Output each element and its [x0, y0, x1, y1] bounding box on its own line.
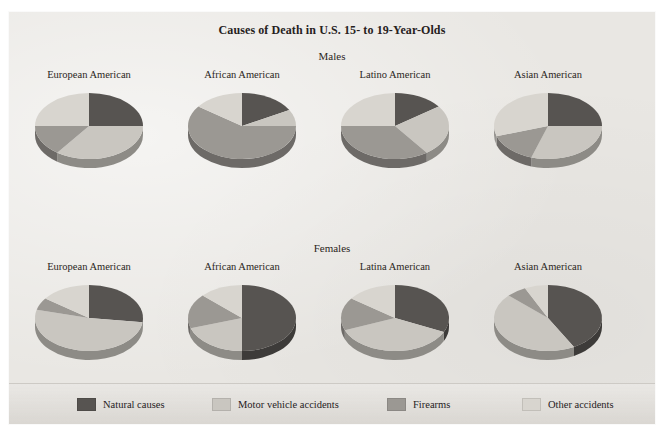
figure-title: Causes of Death in U.S. 15- to 19-Year-O… [9, 23, 655, 38]
pie-label: European American [14, 69, 164, 80]
legend-item-natural-causes: Natural causes [77, 398, 165, 411]
pie-label: Latina American [320, 261, 470, 272]
pie-chart [14, 276, 164, 374]
pie-panel-males-european-american: European American [14, 69, 164, 182]
legend-swatch-firearms [387, 398, 406, 411]
legend: Natural causes Motor vehicle accidents F… [9, 383, 655, 424]
legend-item-other-accidents: Other accidents [522, 398, 614, 411]
pie-chart [14, 84, 164, 182]
legend-label-firearms: Firearms [413, 399, 450, 410]
pie-chart [167, 276, 317, 374]
pie-chart [320, 84, 470, 182]
legend-label-natural-causes: Natural causes [103, 399, 165, 410]
row-label-females: Females [9, 242, 655, 254]
pie-label: African American [167, 261, 317, 272]
pie-chart [167, 84, 317, 182]
pie-label: Asian American [473, 69, 623, 80]
figure-panel: Causes of Death in U.S. 15- to 19-Year-O… [9, 12, 655, 424]
pie-panel-females-african-american: African American [167, 261, 317, 374]
pie-label: Latino American [320, 69, 470, 80]
pie-chart [473, 84, 623, 182]
pie-panel-males-african-american: African American [167, 69, 317, 182]
pie-panel-females-asian-american: Asian American [473, 261, 623, 374]
legend-item-motor-vehicle-accidents: Motor vehicle accidents [212, 398, 339, 411]
pie-chart [320, 276, 470, 374]
legend-label-other-accidents: Other accidents [548, 399, 614, 410]
pie-label: African American [167, 69, 317, 80]
legend-swatch-other-accidents [522, 398, 541, 411]
pie-label: European American [14, 261, 164, 272]
row-label-males: Males [9, 50, 655, 62]
pie-label: Asian American [473, 261, 623, 272]
pie-panel-females-latina-american: Latina American [320, 261, 470, 374]
legend-label-motor-vehicle-accidents: Motor vehicle accidents [238, 399, 339, 410]
pie-chart [473, 276, 623, 374]
pie-panel-males-asian-american: Asian American [473, 69, 623, 182]
legend-swatch-natural-causes [77, 398, 96, 411]
legend-swatch-motor-vehicle-accidents [212, 398, 231, 411]
legend-item-firearms: Firearms [387, 398, 450, 411]
pie-panel-males-latino-american: Latino American [320, 69, 470, 182]
pie-panel-females-european-american: European American [14, 261, 164, 374]
